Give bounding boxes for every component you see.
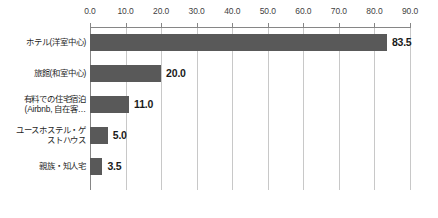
- x-tick-label: 70.0: [331, 6, 347, 16]
- x-tick-label: 0.0: [84, 6, 96, 16]
- x-axis-tick-labels: 0.010.020.030.040.050.060.070.080.090.0: [0, 6, 438, 20]
- x-tick-label: 40.0: [224, 6, 240, 16]
- x-tick-label: 90.0: [402, 6, 418, 16]
- category-label: ホテル(洋室中心): [0, 37, 86, 48]
- gridline: [410, 27, 411, 190]
- category-label: 有料での住宅宿泊 (Airbnb, 自在客…: [0, 94, 86, 115]
- bar: [90, 65, 161, 82]
- bar-value-label: 11.0: [134, 96, 153, 113]
- x-tick-label: 10.0: [117, 6, 133, 16]
- x-tick-label: 80.0: [366, 6, 382, 16]
- bar: [90, 127, 108, 144]
- category-label: 旅館(和室中心): [0, 68, 86, 79]
- x-tick-label: 60.0: [295, 6, 311, 16]
- bar-row: 3.5: [90, 151, 410, 182]
- plot-area: 83.520.011.05.03.5: [90, 27, 410, 190]
- bar-value-label: 20.0: [166, 65, 186, 82]
- bar-value-label: 3.5: [107, 158, 121, 175]
- category-label: ユースホステル・ゲ ストハウス: [0, 125, 86, 146]
- x-tick-label: 20.0: [153, 6, 169, 16]
- category-label: 親族・知人宅: [0, 161, 86, 172]
- bar-chart: 0.010.020.030.040.050.060.070.080.090.0 …: [0, 0, 438, 218]
- bar: [90, 34, 387, 51]
- x-tick-label: 30.0: [189, 6, 205, 16]
- x-tick-mark: [410, 23, 411, 28]
- bar-value-label: 5.0: [113, 127, 127, 144]
- bar-row: 20.0: [90, 58, 410, 89]
- category-axis-labels: ホテル(洋室中心)旅館(和室中心)有料での住宅宿泊 (Airbnb, 自在客…ユ…: [0, 27, 88, 190]
- bar-row: 11.0: [90, 89, 410, 120]
- bar: [90, 158, 102, 175]
- bar-row: 83.5: [90, 27, 410, 58]
- bar: [90, 96, 129, 113]
- bar-value-label: 83.5: [392, 34, 412, 51]
- bar-row: 5.0: [90, 120, 410, 151]
- x-tick-label: 50.0: [260, 6, 276, 16]
